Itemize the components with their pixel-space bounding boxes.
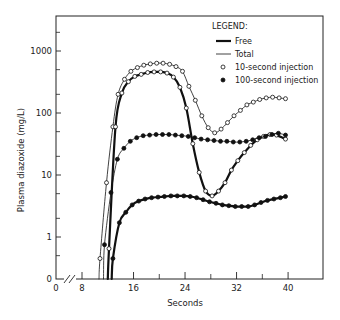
filled-circle-marker: [284, 195, 288, 199]
x-tick-label: 16: [128, 283, 139, 293]
filled-circle-marker: [148, 133, 152, 137]
data-series: [98, 61, 288, 279]
filled-circle-marker: [130, 203, 134, 207]
filled-circle-marker: [156, 195, 160, 199]
open-circle-marker: [181, 69, 185, 73]
open-circle-marker: [242, 151, 246, 155]
legend-10s-label: 10-second injection: [235, 63, 313, 72]
y-tick-label: 10: [41, 170, 52, 180]
open-circle-marker: [213, 131, 217, 135]
open-circle-marker: [223, 181, 227, 185]
open-circle-marker: [123, 77, 127, 81]
open-circle-marker: [178, 85, 182, 89]
filled-circle-marker: [186, 134, 190, 138]
filled-circle-marker: [169, 194, 173, 198]
open-circle-marker: [210, 194, 214, 198]
open-circle-marker: [155, 61, 159, 65]
filled-circle-marker: [115, 157, 119, 161]
filled-circle-marker: [128, 139, 132, 143]
filled-circle-marker: [173, 133, 177, 137]
legend-title: LEGEND:: [212, 22, 248, 31]
open-circle-marker: [251, 100, 255, 104]
filled-circle-marker: [206, 138, 210, 142]
open-circle-marker: [206, 126, 210, 130]
filled-circle-marker: [240, 205, 244, 209]
open-circle-marker: [168, 62, 172, 66]
filled-circle-marker: [264, 134, 268, 138]
open-circle-marker: [284, 137, 288, 141]
open-circle-marker: [184, 106, 188, 110]
filled-circle-marker: [231, 140, 235, 144]
open-circle-marker: [174, 65, 178, 69]
filled-circle-marker: [227, 204, 231, 208]
series-line: [112, 196, 286, 279]
open-circle-marker: [200, 114, 204, 118]
open-circle-marker: [226, 121, 230, 125]
legend-free-label: Free: [235, 37, 252, 46]
plot-frame: [56, 16, 323, 279]
y-tick-label: 100: [36, 108, 52, 118]
open-circle-marker: [258, 98, 262, 102]
open-circle-marker: [271, 95, 275, 99]
open-circle-marker: [236, 159, 240, 163]
filled-circle-marker: [284, 133, 288, 137]
axis-break-icon: [64, 275, 76, 283]
legend: LEGEND: Free Total 10-second injection 1…: [212, 22, 318, 85]
open-circle-marker: [148, 62, 152, 66]
y-tick-label: 1: [47, 232, 52, 242]
filled-circle-marker: [195, 196, 199, 200]
filled-circle-marker: [246, 205, 250, 209]
filled-circle-marker: [175, 194, 179, 198]
filled-circle-icon: [221, 78, 225, 82]
open-circle-marker: [105, 181, 109, 185]
series-0: [98, 61, 288, 279]
x-tick-label: 0: [53, 283, 58, 293]
x-tick-label: 40: [283, 283, 294, 293]
filled-circle-marker: [180, 134, 184, 138]
filled-circle-marker: [182, 194, 186, 198]
open-circle-icon: [221, 65, 225, 69]
x-axis-label: Seconds: [167, 298, 203, 308]
open-circle-marker: [165, 71, 169, 75]
filled-circle-marker: [233, 205, 237, 209]
x-tick-label: 32: [231, 283, 242, 293]
filled-circle-marker: [199, 137, 203, 141]
filled-circle-marker: [225, 139, 229, 143]
filled-circle-marker: [117, 221, 121, 225]
filled-circle-marker: [266, 198, 270, 202]
filled-circle-marker: [201, 198, 205, 202]
filled-circle-marker: [259, 201, 263, 205]
filled-circle-marker: [167, 133, 171, 137]
open-circle-marker: [142, 63, 146, 67]
open-circle-marker: [139, 72, 143, 76]
open-circle-marker: [197, 170, 201, 174]
filled-circle-marker: [214, 201, 218, 205]
open-circle-marker: [187, 84, 191, 88]
filled-circle-marker: [122, 146, 126, 150]
open-circle-marker: [204, 189, 208, 193]
open-circle-marker: [238, 108, 242, 112]
open-circle-marker: [249, 143, 253, 147]
filled-circle-marker: [109, 191, 113, 195]
open-circle-marker: [191, 142, 195, 146]
open-circle-marker: [171, 75, 175, 79]
open-circle-marker: [229, 168, 233, 172]
filled-circle-marker: [278, 196, 282, 200]
open-circle-marker: [161, 61, 165, 65]
filled-circle-marker: [220, 203, 224, 207]
filled-circle-marker: [257, 136, 261, 140]
open-circle-marker: [114, 125, 118, 129]
open-circle-marker: [133, 74, 137, 78]
open-circle-marker: [152, 70, 156, 74]
chart: 01101001000 0816243240 Seconds Plasma di…: [0, 0, 340, 320]
filled-circle-marker: [135, 136, 139, 140]
filled-circle-marker: [161, 133, 165, 137]
open-circle-marker: [107, 247, 111, 251]
open-circle-marker: [219, 127, 223, 131]
open-circle-marker: [245, 103, 249, 107]
open-circle-marker: [146, 71, 150, 75]
filled-circle-marker: [111, 257, 115, 261]
open-circle-marker: [232, 114, 236, 118]
open-circle-marker: [126, 80, 130, 84]
filled-circle-marker: [208, 200, 212, 204]
